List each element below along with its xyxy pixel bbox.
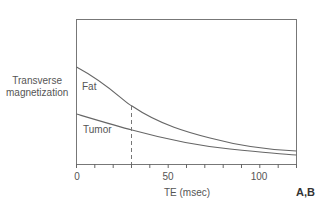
panel-label: A,B — [296, 186, 315, 198]
x-tick-50: 50 — [162, 171, 173, 182]
fat-series-label: Fat — [82, 81, 96, 92]
tumor-series-label: Tumor — [83, 124, 112, 135]
y-axis-label: Transverse magnetization — [6, 75, 68, 99]
y-axis-label-line2: magnetization — [6, 87, 68, 99]
x-tick-100: 100 — [251, 171, 268, 182]
x-axis-label: TE (msec) — [164, 187, 210, 198]
x-tick-0: 0 — [74, 171, 80, 182]
y-axis-label-line1: Transverse — [6, 75, 68, 87]
fat-curve — [77, 67, 297, 151]
